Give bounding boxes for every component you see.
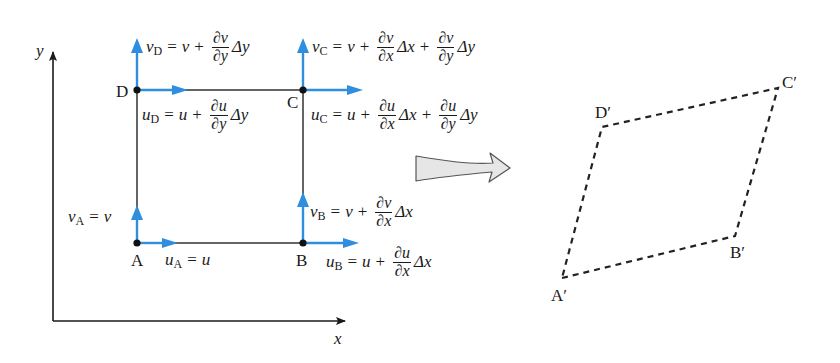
equation-vC: vC = v + ∂v∂x Δx + ∂v∂y Δy [312,30,475,65]
equation-uC: uC = u + ∂u∂x Δx + ∂u∂y Δy [311,98,478,133]
deformed-label-A: A′ [551,287,567,304]
transform-arrow-icon [416,153,510,182]
point-label-D: D [116,83,128,100]
x-axis-label: x [334,330,342,347]
point-label-B: B [296,252,307,269]
deformed-label-D: D′ [595,104,611,121]
equation-vA: vA = v [68,207,111,227]
equation-vD: vD = v + ∂v∂y Δy [146,30,250,65]
equation-uB: uB = u + ∂u∂x Δx [326,245,432,280]
y-axis-label: y [36,42,44,59]
deformed-label-C: C′ [782,74,797,91]
equation-uD: uD = u + ∂u∂y Δy [142,98,248,133]
point-label-C: C [287,94,298,111]
deformed-label-B: B′ [730,244,745,261]
equation-uA: uA = u [165,250,210,270]
equation-vB: vB = v + ∂v∂x Δx [310,195,413,230]
point-label-A: A [131,252,143,269]
